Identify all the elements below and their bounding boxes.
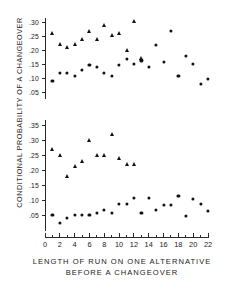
x-tick-mark — [133, 233, 134, 237]
data-point-triangle — [65, 174, 69, 178]
data-point-triangle — [110, 33, 114, 37]
data-point-triangle — [58, 153, 62, 157]
data-point-circle — [66, 71, 69, 74]
data-point-triangle — [117, 156, 121, 160]
data-point-circle — [110, 74, 113, 77]
data-point-circle — [177, 194, 180, 197]
x-tick-label: 2 — [53, 240, 67, 249]
data-point-circle — [132, 62, 135, 65]
y-tick-label: .30 — [17, 137, 39, 144]
x-tick-label: 0 — [38, 240, 52, 249]
x-tick-mark-minor — [170, 235, 171, 238]
data-point-circle — [162, 203, 165, 206]
y-tick-label: .15 — [17, 182, 39, 189]
data-point-circle — [184, 55, 187, 58]
y-tick-mark — [42, 22, 46, 23]
data-point-triangle — [58, 42, 62, 46]
x-tick-mark-minor — [200, 235, 201, 238]
data-point-triangle — [132, 162, 136, 166]
y-tick-label: .15 — [17, 61, 39, 68]
x-tick-mark-minor — [111, 235, 112, 238]
data-point-circle — [80, 68, 83, 71]
data-point-circle — [169, 30, 172, 33]
x-axis-title-line1: LENGTH OF RUN ON ONE ALTERNATIVE — [22, 256, 222, 267]
x-tick-label: 14 — [142, 240, 156, 249]
data-point-triangle — [87, 29, 91, 33]
data-point-triangle — [50, 147, 54, 151]
y-tick-mark — [42, 140, 46, 141]
data-point-circle — [169, 203, 172, 206]
data-point-circle — [206, 209, 209, 212]
y-tick-label: .05 — [17, 212, 39, 219]
x-tick-mark — [178, 233, 179, 237]
y-tick-mark — [42, 78, 46, 79]
data-point-circle — [95, 65, 98, 68]
data-point-triangle — [125, 48, 129, 52]
y-tick-mark — [42, 50, 46, 51]
y-tick-label: .05 — [17, 89, 39, 96]
x-tick-mark-minor — [126, 235, 127, 238]
data-point-triangle — [110, 132, 114, 136]
x-tick-mark-minor — [82, 235, 83, 238]
y-tick-mark — [42, 200, 46, 201]
data-point-triangle — [117, 31, 121, 35]
data-point-circle — [51, 79, 54, 82]
data-point-triangle — [95, 37, 99, 41]
x-tick-mark — [45, 233, 46, 237]
data-point-circle — [184, 214, 187, 217]
data-point-triangle — [73, 164, 77, 168]
x-tick-label: 22 — [201, 240, 215, 249]
data-point-circle — [125, 202, 128, 205]
data-point-circle — [199, 203, 202, 206]
data-point-circle — [206, 77, 209, 80]
data-point-triangle — [80, 159, 84, 163]
y-tick-label: .25 — [17, 33, 39, 40]
x-tick-mark — [74, 233, 75, 237]
data-point-triangle — [50, 31, 54, 35]
x-tick-mark — [104, 233, 105, 237]
data-point-circle — [199, 83, 202, 86]
data-point-circle — [88, 63, 91, 66]
data-point-circle — [103, 208, 106, 211]
x-tick-label: 4 — [68, 240, 82, 249]
data-point-circle — [192, 63, 195, 66]
x-tick-mark-minor — [96, 235, 97, 238]
y-tick-label: .10 — [17, 75, 39, 82]
x-tick-mark-minor — [156, 235, 157, 238]
x-tick-mark — [193, 233, 194, 237]
x-tick-mark — [208, 233, 209, 237]
data-point-circle — [155, 44, 158, 47]
x-axis-title: LENGTH OF RUN ON ONE ALTERNATIVE BEFORE … — [22, 256, 222, 278]
data-point-circle — [118, 63, 121, 66]
y-tick-mark — [42, 64, 46, 65]
data-point-circle — [73, 213, 76, 216]
data-point-circle — [88, 214, 91, 217]
data-point-circle — [110, 211, 113, 214]
data-point-triangle — [132, 19, 136, 23]
figure-canvas: CONDITIONAL PROBABILITY OF A CHANGEOVER … — [0, 0, 235, 289]
x-tick-mark — [59, 233, 60, 237]
y-tick-mark — [42, 155, 46, 156]
x-tick-label: 6 — [82, 240, 96, 249]
x-tick-mark-minor — [141, 235, 142, 238]
y-tick-mark — [42, 185, 46, 186]
data-point-triangle — [73, 42, 77, 46]
data-point-circle — [95, 211, 98, 214]
data-point-circle — [147, 197, 150, 200]
y-tick-label: .25 — [17, 152, 39, 159]
y-tick-mark — [42, 170, 46, 171]
data-point-circle — [103, 71, 106, 74]
data-point-circle — [162, 60, 165, 63]
y-tick-mark — [42, 125, 46, 126]
data-point-circle — [118, 202, 121, 205]
y-axis-line — [45, 18, 46, 99]
data-point-triangle — [125, 162, 129, 166]
data-point-triangle — [80, 37, 84, 41]
data-point-triangle — [102, 23, 106, 27]
data-point-circle — [147, 65, 150, 68]
x-tick-mark — [148, 233, 149, 237]
x-tick-label: 20 — [186, 240, 200, 249]
x-tick-mark — [119, 233, 120, 237]
data-point-circle — [58, 71, 61, 74]
x-tick-label: 8 — [97, 240, 111, 249]
